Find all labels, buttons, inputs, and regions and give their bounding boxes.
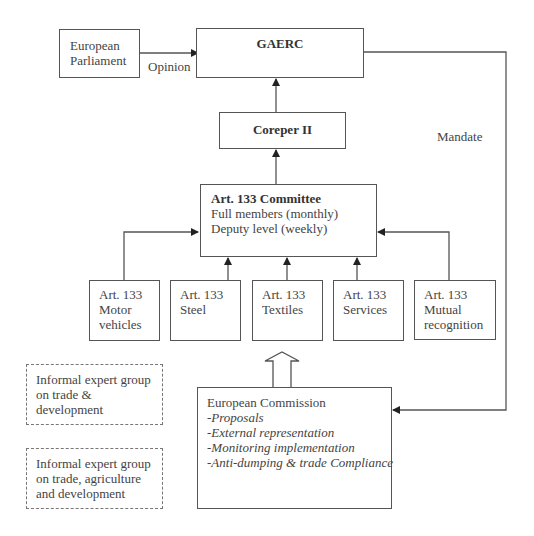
node-label: Textiles xyxy=(262,302,303,317)
node-label: European xyxy=(70,38,120,53)
subcommittee-motor-vehicles: Art. 133 Motor vehicles xyxy=(89,280,160,341)
node-label: Parliament xyxy=(70,53,126,68)
node-label: recognition xyxy=(424,317,483,332)
mandate-label: Mandate xyxy=(437,129,482,144)
informal-group-trade-agriculture: Informal expert group on trade, agricult… xyxy=(26,448,163,509)
commission-item: -Proposals xyxy=(207,410,264,425)
gaerc-node: GAERC xyxy=(196,28,364,78)
commission-item: -Monitoring implementation xyxy=(207,440,355,455)
node-label: vehicles xyxy=(99,317,142,332)
node-label: Art. 133 xyxy=(262,287,305,302)
european-commission-node: European Commission -Proposals -External… xyxy=(197,387,392,509)
node-title: GAERC xyxy=(197,36,363,51)
subcommittee-services: Art. 133 Services xyxy=(333,280,404,341)
node-label: development xyxy=(36,402,103,417)
node-label: Art. 133 xyxy=(180,287,223,302)
node-label: Informal expert group xyxy=(36,372,151,387)
node-title: Art. 133 Committee xyxy=(211,191,321,206)
node-label: Services xyxy=(343,302,387,317)
node-label: Art. 133 xyxy=(343,287,386,302)
node-label: and development xyxy=(36,486,125,501)
node-label: Art. 133 xyxy=(424,287,467,302)
node-label: Art. 133 xyxy=(99,287,142,302)
node-label: Motor xyxy=(99,302,132,317)
node-label: Steel xyxy=(180,302,206,317)
node-label: Deputy level (weekly) xyxy=(211,221,327,236)
node-label: Full members (monthly) xyxy=(211,206,338,221)
node-label: on trade, agriculture xyxy=(36,471,141,486)
commission-item: -Anti-dumping & trade Compliance xyxy=(207,455,393,470)
subcommittee-steel: Art. 133 Steel xyxy=(170,280,241,341)
subcommittee-mutual-recognition: Art. 133 Mutual recognition xyxy=(414,280,496,340)
node-title: European Commission xyxy=(207,395,326,410)
subcommittee-textiles: Art. 133 Textiles xyxy=(252,280,323,341)
european-parliament-node: European Parliament xyxy=(59,29,140,78)
opinion-label: Opinion xyxy=(148,59,191,74)
commission-item: -External representation xyxy=(207,425,334,440)
art133-committee-node: Art. 133 Committee Full members (monthly… xyxy=(200,184,377,257)
coreper-node: Coreper II xyxy=(219,112,346,149)
informal-group-trade-development: Informal expert group on trade & develop… xyxy=(26,364,163,425)
node-title: Coreper II xyxy=(220,122,345,137)
node-label: Informal expert group xyxy=(36,456,151,471)
node-label: on trade & xyxy=(36,387,92,402)
node-label: Mutual xyxy=(424,302,462,317)
